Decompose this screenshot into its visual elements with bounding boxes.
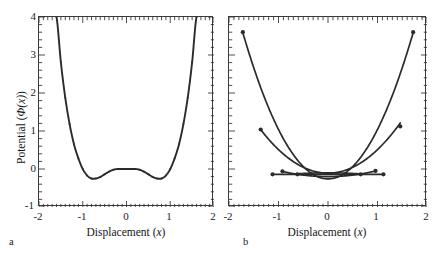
data-point xyxy=(147,173,149,175)
x-axis-title-b-prefix: Displacement ( xyxy=(288,226,358,238)
data-point xyxy=(187,97,189,99)
y-axis-title-a-prefix: Potential ( xyxy=(15,116,27,164)
tick-marks xyxy=(39,17,214,207)
data-point xyxy=(64,97,66,99)
endpoint-marker xyxy=(270,172,274,176)
x-axis-title-a: Displacement (x) xyxy=(66,226,186,238)
series-parabola-steep xyxy=(241,30,415,179)
endpoint-marker xyxy=(411,30,415,34)
data-point xyxy=(104,173,106,175)
data-point xyxy=(130,168,132,170)
x-tick-label-a-1: 1 xyxy=(159,211,179,222)
y-tick-label-neg1: -1 xyxy=(18,200,34,211)
series-double-well-potential xyxy=(56,17,198,179)
plot-frame-a xyxy=(38,16,213,206)
plot-area-b xyxy=(229,17,427,207)
y-tick-label-0: 0 xyxy=(20,163,36,174)
endpoint-marker xyxy=(398,124,402,128)
x-axis-title-a-suffix: ) xyxy=(162,226,166,238)
data-point xyxy=(156,178,158,180)
data-point xyxy=(95,178,97,180)
data-point xyxy=(143,171,145,173)
data-point xyxy=(82,168,84,170)
data-point xyxy=(178,143,180,145)
x-tick-label-b-neg2: -2 xyxy=(218,211,238,222)
data-point xyxy=(126,168,128,170)
data-point xyxy=(121,168,123,170)
data-point xyxy=(73,143,75,145)
data-point xyxy=(117,168,119,170)
data-point xyxy=(60,61,62,63)
x-axis-title-b: Displacement (x) xyxy=(267,226,387,238)
data-point xyxy=(69,123,71,125)
y-tick-label-4: 4 xyxy=(20,11,36,22)
data-point xyxy=(99,176,101,178)
x-tick-label-b-0: 0 xyxy=(317,211,337,222)
y-tick-label-3: 3 xyxy=(20,49,36,60)
endpoint-marker xyxy=(241,30,245,34)
series-parabola-medium xyxy=(259,123,403,173)
endpoint-marker xyxy=(373,169,377,173)
y-axis-title-a-suffix: ) xyxy=(15,91,27,95)
data-point xyxy=(165,175,167,177)
data-point xyxy=(152,176,154,178)
endpoint-marker xyxy=(295,172,299,176)
x-tick-label-a-neg2: -2 xyxy=(28,211,48,222)
data-point xyxy=(139,169,141,171)
plot-area-a xyxy=(39,17,214,207)
x-axis-title-b-suffix: ) xyxy=(363,226,367,238)
x-tick-label-a-0: 0 xyxy=(116,211,136,222)
endpoint-marker xyxy=(381,172,385,176)
x-axis-title-a-prefix: Displacement ( xyxy=(87,226,157,238)
data-point xyxy=(91,178,93,180)
data-point xyxy=(112,169,114,171)
data-point xyxy=(108,171,110,173)
panel-letter-a: a xyxy=(9,236,14,247)
endpoint-marker xyxy=(259,127,263,131)
x-tick-label-b-1: 1 xyxy=(366,211,386,222)
data-point xyxy=(161,178,163,180)
x-tick-label-b-neg1: -1 xyxy=(267,211,287,222)
plot-frame-b xyxy=(228,16,426,206)
data-point xyxy=(86,175,88,177)
data-point xyxy=(182,123,184,125)
x-tick-label-a-neg1: -1 xyxy=(72,211,92,222)
data-point xyxy=(191,61,193,63)
y-axis-title-a-var: Φ(x) xyxy=(15,95,27,117)
figure-container: 4 3 2 1 0 -1 -2 -1 0 1 2 Displacement (x… xyxy=(0,0,438,254)
data-point xyxy=(134,168,136,170)
y-axis-title-a: Potential (Φ(x)) xyxy=(15,91,27,164)
data-point xyxy=(169,168,171,170)
endpoint-marker xyxy=(280,169,284,173)
data-point xyxy=(77,157,79,159)
x-tick-label-b-2: 2 xyxy=(416,211,436,222)
panel-letter-b: b xyxy=(243,236,248,247)
endpoint-marker xyxy=(359,172,363,176)
data-point xyxy=(174,157,176,159)
